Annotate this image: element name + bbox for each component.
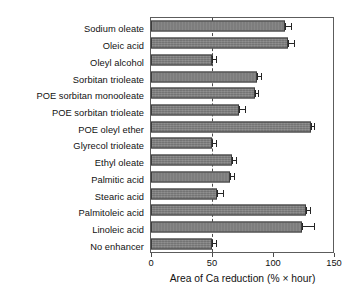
bar-row (151, 104, 334, 115)
error-bar-cap-lower (288, 40, 289, 47)
error-bar-cap-lower (239, 106, 240, 113)
x-axis-tick-label: 0 (148, 257, 153, 269)
bar-row (151, 38, 334, 49)
bar (151, 221, 302, 232)
category-label: Oleyl alcohol (0, 58, 144, 68)
error-bar-cap-upper (216, 56, 217, 63)
error-bar-cap-lower (285, 23, 286, 30)
bar (151, 71, 257, 82)
category-label: Sodium oleate (0, 24, 144, 34)
x-axis-tick-label: 100 (265, 257, 281, 269)
bar (151, 21, 285, 32)
category-label: Ethyl oleate (0, 158, 144, 168)
category-label: Palmitoleic acid (0, 208, 144, 218)
bar-row (151, 205, 334, 216)
category-label: POE oleyl ether (0, 125, 144, 135)
error-bar-line (302, 226, 314, 227)
bar-row (151, 21, 334, 32)
bar (151, 121, 311, 132)
category-label: Oleic acid (0, 41, 144, 51)
error-bar-cap-upper (234, 173, 235, 180)
error-bar-cap-upper (291, 23, 292, 30)
category-label: Glyrecol trioleate (0, 141, 144, 151)
bar (151, 238, 212, 249)
error-bar-cap-upper (310, 207, 311, 214)
category-label: Linoleic acid (0, 225, 144, 235)
bar (151, 171, 230, 182)
bar (151, 54, 212, 65)
bar-row (151, 71, 334, 82)
error-bar-cap-upper (314, 223, 315, 230)
error-bar-cap-lower (232, 157, 233, 164)
bar-row (151, 238, 334, 249)
bar (151, 88, 255, 99)
reference-line-50 (212, 18, 213, 252)
error-bar-cap-upper (216, 140, 217, 147)
error-bar-cap-upper (216, 240, 217, 247)
bar-row (151, 54, 334, 65)
error-bar-cap-lower (311, 123, 312, 130)
x-axis-tick-labels: 050100150 (151, 257, 334, 270)
bar (151, 155, 232, 166)
x-axis-tick-label: 50 (207, 257, 217, 269)
bar (151, 104, 239, 115)
bar-row (151, 88, 334, 99)
category-label: Stearic acid (0, 192, 144, 202)
error-bar-cap-lower (257, 73, 258, 80)
plot-area (151, 18, 334, 252)
bar (151, 38, 288, 49)
bar (151, 205, 306, 216)
bar (151, 138, 212, 149)
bar-chart-figure: Sodium oleateOleic acidOleyl alcoholSorb… (0, 0, 364, 298)
error-bar-cap-lower (230, 173, 231, 180)
category-label: Sorbitan trioleate (0, 75, 144, 85)
error-bar-cap-lower (212, 140, 213, 147)
error-bar-cap-upper (245, 106, 246, 113)
bar (151, 188, 217, 199)
error-bar-cap-lower (212, 56, 213, 63)
bar-row (151, 155, 334, 166)
bar-row (151, 121, 334, 132)
error-bar-cap-upper (236, 157, 237, 164)
error-bar-cap-lower (255, 90, 256, 97)
error-bar-cap-upper (314, 123, 315, 130)
error-bar-cap-upper (261, 73, 262, 80)
bar-row (151, 188, 334, 199)
category-axis-labels: Sodium oleateOleic acidOleyl alcoholSorb… (0, 22, 147, 248)
error-bar-cap-upper (258, 90, 259, 97)
x-axis-tick-label: 150 (326, 257, 342, 269)
error-bar-cap-upper (294, 40, 295, 47)
error-bar-cap-lower (302, 223, 303, 230)
error-bar-cap-lower (217, 190, 218, 197)
category-label: Palmitic acid (0, 175, 144, 185)
error-bar-cap-lower (306, 207, 307, 214)
category-label: POE sorbitan monooleate (0, 91, 144, 101)
error-bar-cap-lower (212, 240, 213, 247)
bar-row (151, 171, 334, 182)
bar-row (151, 138, 334, 149)
category-label: POE sorbitan trioleate (0, 108, 144, 118)
category-label: No enhancer (0, 242, 144, 252)
bar-row (151, 221, 334, 232)
x-axis-title: Area of Ca reduction (% × hour) (151, 272, 334, 285)
error-bar-cap-upper (223, 190, 224, 197)
